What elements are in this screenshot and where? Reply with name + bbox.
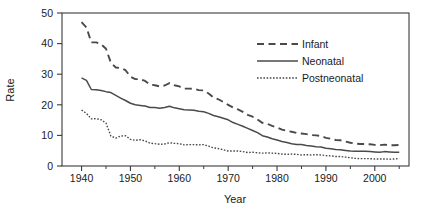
x-axis-tick-labels: 1940195019601970198019902000 xyxy=(70,172,387,184)
y-tick-label-20: 20 xyxy=(41,99,53,111)
y-tick-label-30: 30 xyxy=(41,68,53,80)
chart-legend: InfantNeonatalPostneonatal xyxy=(257,38,363,84)
infant-mortality-line-chart: 1940195019601970198019902000 01020304050… xyxy=(0,0,427,214)
data-series-group xyxy=(82,22,400,159)
chart-svg: 1940195019601970198019902000 01020304050… xyxy=(0,0,427,214)
x-tick-label-1980: 1980 xyxy=(265,172,289,184)
legend-label-postneonatal: Postneonatal xyxy=(302,72,363,84)
plot-frame xyxy=(62,13,409,166)
plot-frame-group xyxy=(62,13,409,166)
legend-label-infant: Infant xyxy=(302,38,328,50)
x-axis-title: Year xyxy=(224,193,247,205)
y-tick-label-0: 0 xyxy=(47,160,53,172)
series-line-postneonatal xyxy=(82,110,400,159)
y-axis-title: Rate xyxy=(4,78,16,101)
y-axis-tick-labels: 01020304050 xyxy=(41,7,53,172)
series-line-neonatal xyxy=(82,78,400,152)
y-tick-label-10: 10 xyxy=(41,129,53,141)
legend-label-neonatal: Neonatal xyxy=(302,55,344,67)
x-tick-label-1990: 1990 xyxy=(314,172,338,184)
x-tick-label-1960: 1960 xyxy=(168,172,192,184)
x-tick-label-2000: 2000 xyxy=(363,172,387,184)
x-tick-label-1950: 1950 xyxy=(119,172,143,184)
x-axis-ticks xyxy=(82,166,400,171)
x-tick-label-1940: 1940 xyxy=(70,172,94,184)
x-tick-label-1970: 1970 xyxy=(216,172,240,184)
y-tick-label-50: 50 xyxy=(41,7,53,19)
y-tick-label-40: 40 xyxy=(41,37,53,49)
y-axis-ticks xyxy=(57,13,62,166)
